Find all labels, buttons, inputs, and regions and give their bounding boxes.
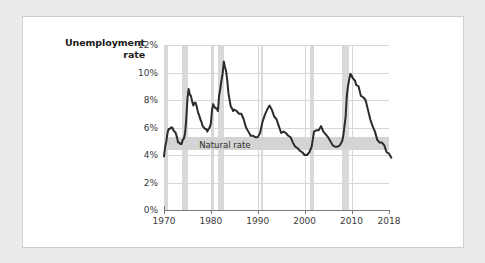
x-tick-label: 1970 (153, 216, 176, 226)
chart-axis-title: Unemployment rate (35, 37, 145, 61)
chart-card: Unemployment rate Natural rate 0%2%4%6%8… (22, 16, 464, 248)
x-tick-mark (164, 210, 165, 214)
x-tick-label: 2000 (293, 216, 316, 226)
y-tick-label: 2% (144, 178, 158, 188)
x-tick-mark (352, 210, 353, 214)
x-tick-mark (211, 210, 212, 214)
unemployment-rate-line (164, 45, 389, 210)
x-tick-mark (305, 210, 306, 214)
plot-area: Natural rate 0%2%4%6%8%10%12% 1970198019… (164, 45, 389, 210)
x-axis-line (164, 210, 389, 211)
x-tick-label: 2010 (340, 216, 363, 226)
y-tick-label: 8% (144, 95, 158, 105)
axis-title-line1: Unemployment (35, 37, 145, 49)
series-line (164, 62, 391, 158)
y-tick-label: 12% (138, 40, 158, 50)
x-tick-mark (389, 210, 390, 214)
unemployment-rate-chart: Unemployment rate Natural rate 0%2%4%6%8… (23, 17, 463, 247)
x-tick-label: 1980 (199, 216, 222, 226)
y-tick-label: 6% (144, 123, 158, 133)
x-tick-mark (258, 210, 259, 214)
y-tick-label: 0% (144, 205, 158, 215)
y-tick-label: 10% (138, 68, 158, 78)
axis-title-line2: rate (35, 49, 145, 61)
x-tick-label: 2018 (378, 216, 401, 226)
x-tick-label: 1990 (246, 216, 269, 226)
y-tick-label: 4% (144, 150, 158, 160)
